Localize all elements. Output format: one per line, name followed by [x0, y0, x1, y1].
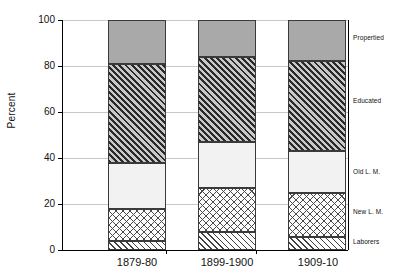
legend-item-new-lm[interactable]: New L. M. [353, 208, 383, 216]
x-tick-label-1899-1900: 1899-1900 [182, 256, 272, 268]
bar-1909-10[interactable] [288, 20, 346, 250]
stacked-bar-chart: Percent 100 80 60 40 20 [0, 0, 410, 279]
segment-propertied-1899-1900[interactable] [198, 20, 256, 57]
segment-laborers-1909-10[interactable] [288, 237, 346, 250]
y-axis-line [62, 20, 63, 250]
legend-item-laborers[interactable]: Laborers [353, 238, 379, 246]
segment-old-lm-1899-1900[interactable] [198, 142, 256, 188]
legend-item-propertied[interactable]: Propertied [353, 34, 384, 42]
segment-educated-1879-80[interactable] [108, 64, 166, 163]
y-tick-label-60: 60 [44, 107, 55, 117]
x-tick-mark-2 [256, 250, 257, 254]
bar-1899-1900[interactable] [198, 20, 256, 250]
y-tick-label-40: 40 [44, 153, 55, 163]
y-tick-mark-80 [58, 66, 62, 67]
segment-propertied-1879-80[interactable] [108, 20, 166, 64]
segment-laborers-1899-1900[interactable] [198, 232, 256, 250]
y-tick-mark-0 [58, 250, 62, 251]
segment-new-lm-1899-1900[interactable] [198, 188, 256, 232]
plot-area: 100 80 60 40 20 0 [62, 20, 348, 250]
y-tick-label-80: 80 [44, 61, 55, 71]
y-axis-label: Percent [6, 76, 17, 146]
y-tick-label-20: 20 [44, 199, 55, 209]
x-axis-line [62, 250, 348, 251]
x-tick-label-1879-80: 1879-80 [92, 256, 182, 268]
segment-new-lm-1909-10[interactable] [288, 193, 346, 238]
segment-educated-1899-1900[interactable] [198, 57, 256, 142]
legend-item-educated[interactable]: Educated [353, 97, 381, 105]
legend-item-old-lm[interactable]: Old L. M. [353, 168, 380, 176]
y-tick-mark-60 [58, 112, 62, 113]
y-tick-mark-20 [58, 204, 62, 205]
segment-propertied-1909-10[interactable] [288, 20, 346, 61]
x-tick-mark-1 [166, 250, 167, 254]
x-tick-label-1909-10: 1909-10 [274, 256, 362, 268]
segment-old-lm-1909-10[interactable] [288, 151, 346, 192]
y-tick-mark-100 [58, 20, 62, 21]
bar-1879-80[interactable] [108, 20, 166, 250]
segment-new-lm-1879-80[interactable] [108, 209, 166, 241]
legend: Propertied Educated Old L. M. New L. M. … [349, 20, 410, 250]
y-tick-label-0: 0 [49, 245, 55, 255]
segment-laborers-1879-80[interactable] [108, 241, 166, 250]
segment-old-lm-1879-80[interactable] [108, 163, 166, 209]
y-tick-mark-40 [58, 158, 62, 159]
y-tick-label-100: 100 [38, 15, 55, 25]
segment-educated-1909-10[interactable] [288, 61, 346, 151]
